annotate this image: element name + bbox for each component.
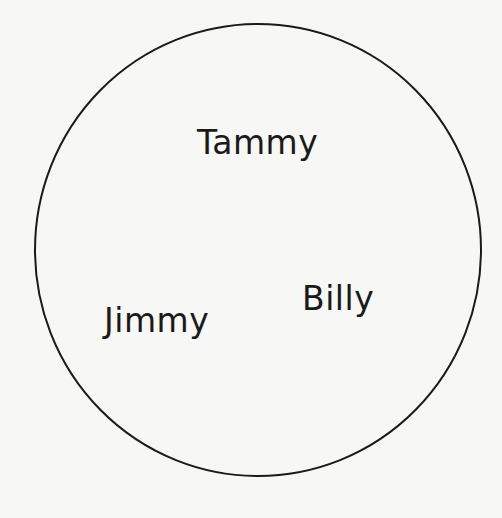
diagram-canvas — [0, 0, 502, 518]
label-tammy: Tammy — [197, 126, 318, 159]
label-jimmy: Jimmy — [104, 304, 209, 337]
label-billy: Billy — [302, 282, 374, 315]
set-circle — [35, 24, 481, 476]
